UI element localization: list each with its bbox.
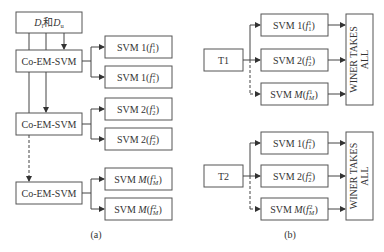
- svm-label: SVM 2(f21): [273, 54, 315, 67]
- svm-label: SVM 2(f22): [273, 170, 315, 183]
- wta-label: WINER TAKES: [348, 26, 359, 93]
- input-data-label: Dl和Du: [33, 17, 64, 29]
- input-box-t1: T1: [204, 49, 243, 71]
- wta-label: ALL: [359, 50, 370, 69]
- panel-b: T1 SVM 1(f11) SVM 2(f21) SVM M(fM1) WINE…: [204, 14, 373, 241]
- svm-label: SVM 1(f12): [273, 137, 315, 150]
- svm-box: SVM M(fM1): [105, 168, 172, 190]
- diagram-canvas: Dl和Du Co-EM-SVM Co-EM-SVM: [0, 0, 384, 252]
- svm-box: SVM 1(f12): [105, 66, 172, 88]
- input-box-t2: T2: [204, 165, 243, 187]
- wta-label: ALL: [359, 166, 370, 185]
- svm-label: SVM 1(f11): [117, 41, 159, 54]
- svm-box: SVM 2(f21): [261, 49, 328, 71]
- svm-label: SVM M(fM2): [270, 203, 318, 216]
- svm-label: SVM 2(f21): [117, 103, 159, 116]
- svm-box: SVM 2(f22): [261, 165, 328, 187]
- svm-box: SVM 1(f11): [105, 36, 172, 58]
- co-em-svm-label: Co-EM-SVM: [21, 56, 76, 67]
- svm-box: SVM 2(f21): [105, 98, 172, 120]
- svm-label: SVM M(fM1): [114, 173, 162, 186]
- co-em-svm-box-3: Co-EM-SVM: [16, 182, 82, 204]
- panel-a: Dl和Du Co-EM-SVM Co-EM-SVM: [16, 12, 172, 241]
- svm-box: SVM M(fM1): [261, 83, 328, 105]
- svm-box: SVM 1(f12): [261, 132, 328, 154]
- caption-a: (a): [90, 229, 101, 241]
- wta-label: WINER TAKES: [348, 143, 359, 210]
- svm-box: SVM M(fM2): [261, 198, 328, 220]
- svm-label: SVM M(fM2): [114, 203, 162, 216]
- svm-label: SVM 1(f12): [117, 71, 159, 84]
- input-data-box: Dl和Du: [16, 12, 82, 33]
- co-em-svm-label: Co-EM-SVM: [21, 119, 76, 130]
- co-em-svm-box-2: Co-EM-SVM: [16, 113, 82, 135]
- svm-label: SVM 1(f11): [273, 19, 315, 32]
- svm-label: SVM M(fM1): [270, 88, 318, 101]
- co-em-svm-box-1: Co-EM-SVM: [16, 50, 82, 72]
- input-label: T1: [218, 55, 229, 66]
- winner-takes-all-box-1: WINER TAKES ALL: [346, 14, 373, 105]
- svm-box: SVM 1(f11): [261, 14, 328, 36]
- input-label: T2: [218, 171, 229, 182]
- svm-box: SVM M(fM2): [105, 198, 172, 220]
- co-em-svm-label: Co-EM-SVM: [21, 188, 76, 199]
- svm-box: SVM 2(f22): [105, 128, 172, 150]
- winner-takes-all-box-2: WINER TAKES ALL: [346, 132, 373, 220]
- caption-b: (b): [284, 229, 296, 241]
- svm-label: SVM 2(f22): [117, 133, 159, 146]
